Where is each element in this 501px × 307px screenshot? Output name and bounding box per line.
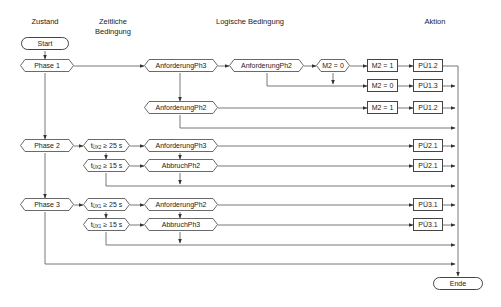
header-zeitliche-line1: Zeitliche: [88, 17, 138, 27]
time-condition-label: tÜX2 ≥ 15 s: [91, 162, 123, 170]
action-pu1-2-a: PÜ1.2: [413, 59, 443, 72]
action-set-m2-1-b: M2 = 1: [367, 101, 398, 114]
action-set-m2-1-a: M2 = 1: [367, 59, 398, 72]
action-pu1-2-b: PÜ1.2: [413, 101, 443, 114]
action-label: PÜ1.2: [418, 62, 437, 69]
logic-label: AnforderungPh2: [156, 201, 207, 208]
flow-connectors: [0, 0, 501, 307]
header-aktion: Aktion: [415, 17, 455, 27]
action-pu2-1-a: PÜ2.1: [413, 139, 443, 152]
logic-p2-anforderung-ph3: AnforderungPh3: [144, 139, 218, 152]
logic-label: AbbruchPh2: [162, 162, 201, 169]
start-label: Start: [38, 40, 53, 47]
time-condition-label: tÜX2 ≥ 25 s: [91, 142, 123, 150]
logic-label: AbbruchPh3: [162, 221, 201, 228]
action-pu3-1-a: PÜ3.1: [413, 198, 443, 211]
state-phase-3: Phase 3: [20, 198, 74, 211]
action-pu1-3: PÜ1.3: [413, 79, 443, 92]
time-condition-p3-15s: tÜX1 ≥ 15 s: [83, 218, 130, 231]
action-label: M2 = 0: [372, 82, 394, 89]
action-label: M2 = 1: [372, 104, 394, 111]
action-label: PÜ2.1: [418, 162, 437, 169]
header-zeitliche-bedingung: Zeitliche Bedingung: [88, 17, 138, 37]
header-zeitliche-line2: Bedingung: [88, 27, 138, 37]
end-terminal: Ende: [433, 277, 483, 290]
action-pu3-1-b: PÜ3.1: [413, 218, 443, 231]
state-phase-2: Phase 2: [20, 139, 74, 152]
logic-label: AnforderungPh3: [156, 142, 207, 149]
logic-p2-abbruch-ph2: AbbruchPh2: [144, 159, 218, 172]
action-label: PÜ1.2: [418, 104, 437, 111]
logic-label: M2 = 0: [322, 62, 344, 69]
logic-p3-abbruch-ph3: AbbruchPh3: [144, 218, 218, 231]
phase-1-label: Phase 1: [34, 62, 60, 69]
action-label: M2 = 1: [372, 62, 394, 69]
time-condition-p3-25s: tÜX1 ≥ 25 s: [83, 198, 130, 211]
logic-p1-anforderung-ph2-b: AnforderungPh2: [144, 101, 218, 114]
time-condition-label: tÜX1 ≥ 15 s: [91, 221, 123, 229]
phase-3-label: Phase 3: [34, 201, 60, 208]
start-terminal: Start: [21, 37, 69, 50]
end-label: Ende: [450, 280, 466, 287]
logic-p1-anforderung-ph2-a: AnforderungPh2: [229, 59, 304, 72]
action-pu2-1-b: PÜ2.1: [413, 159, 443, 172]
logic-label: AnforderungPh2: [241, 62, 292, 69]
logic-p3-anforderung-ph2: AnforderungPh2: [144, 198, 218, 211]
action-label: PÜ3.1: [418, 221, 437, 228]
time-condition-p2-15s: tÜX2 ≥ 15 s: [83, 159, 130, 172]
header-logische-bedingung: Logische Bedingung: [205, 17, 295, 27]
time-condition-label: tÜX1 ≥ 25 s: [91, 201, 123, 209]
action-label: PÜ1.3: [418, 82, 437, 89]
time-condition-p2-25s: tÜX2 ≥ 25 s: [83, 139, 130, 152]
state-phase-1: Phase 1: [20, 59, 74, 72]
phase-2-label: Phase 2: [34, 142, 60, 149]
logic-label: AnforderungPh2: [156, 104, 207, 111]
action-set-m2-0: M2 = 0: [367, 79, 398, 92]
action-label: PÜ2.1: [418, 142, 437, 149]
logic-p1-anforderung-ph3: AnforderungPh3: [144, 59, 218, 72]
logic-label: AnforderungPh3: [156, 62, 207, 69]
logic-p1-m2-equals-0: M2 = 0: [316, 59, 350, 72]
action-label: PÜ3.1: [418, 201, 437, 208]
header-zustand: Zustand: [20, 17, 70, 27]
